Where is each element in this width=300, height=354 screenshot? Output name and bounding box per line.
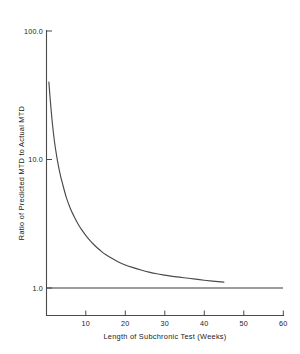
x-tick-label-20: 20 [121, 319, 129, 328]
y-tick-label-1: 1.0 [32, 284, 43, 293]
x-tick-marks [86, 311, 283, 316]
y-tick-marks [47, 31, 53, 288]
x-tick-label-30: 30 [161, 319, 169, 328]
y-tick-label-10: 10.0 [28, 155, 43, 164]
chart-figure: 100.0 10.0 1.0 10 20 30 40 50 60 Length … [0, 0, 300, 354]
y-tick-label-100: 100.0 [24, 27, 43, 36]
x-tick-label-10: 10 [82, 319, 90, 328]
ratio-decay-curve [49, 82, 224, 282]
y-axis-title: Ratio of Predicted MTD to Actual MTD [17, 106, 26, 240]
x-tick-label-50: 50 [240, 319, 248, 328]
chart-plot-svg: 100.0 10.0 1.0 10 20 30 40 50 60 Length … [0, 0, 300, 354]
x-tick-label-40: 40 [200, 319, 208, 328]
x-axis-title: Length of Subchronic Test (Weeks) [103, 332, 226, 341]
x-tick-label-60: 60 [279, 319, 287, 328]
